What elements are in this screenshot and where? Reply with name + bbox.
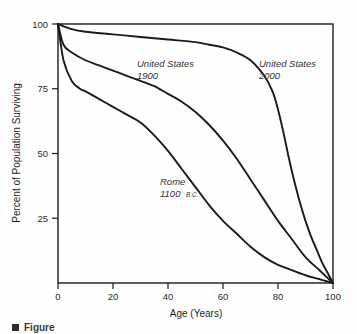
x-axis-ticks xyxy=(58,283,333,289)
label-us2000-line2: 2000 xyxy=(258,70,281,81)
caption-bullet-icon xyxy=(12,324,19,331)
caption-label: Figure xyxy=(24,322,55,333)
label-us1900-line1: United States xyxy=(137,58,194,69)
x-tick-label-60: 60 xyxy=(218,291,229,302)
label-us2000-line1: United States xyxy=(259,58,316,69)
x-tick-label-20: 20 xyxy=(108,291,119,302)
y-axis-ticks xyxy=(52,24,58,218)
y-tick-label-100: 100 xyxy=(32,19,48,30)
label-rome-line2: 1100 xyxy=(160,188,181,199)
x-tick-label-40: 40 xyxy=(163,291,174,302)
label-us1900-line2: 1900 xyxy=(137,70,159,81)
annotation-united-states-2000: United States 2000 xyxy=(258,58,316,81)
annotation-rome: Rome 1100 B.C. xyxy=(160,176,198,199)
x-tick-label-100: 100 xyxy=(325,291,341,302)
annotation-united-states-1900: United States 1900 xyxy=(137,58,194,81)
y-tick-label-75: 75 xyxy=(37,83,48,94)
y-tick-label-25: 25 xyxy=(37,213,48,224)
label-rome-era: B.C. xyxy=(186,191,198,198)
label-rome-line1: Rome xyxy=(160,176,185,187)
y-axis-title: Percent of Population Surviving xyxy=(11,83,22,223)
figure-container: 100 75 50 25 0 20 40 60 80 100 Age (Year… xyxy=(0,0,357,334)
x-tick-label-80: 80 xyxy=(273,291,284,302)
y-tick-label-50: 50 xyxy=(37,148,48,159)
x-tick-label-0: 0 xyxy=(55,291,60,302)
x-axis-title: Age (Years) xyxy=(170,308,222,319)
survivorship-chart: 100 75 50 25 0 20 40 60 80 100 Age (Year… xyxy=(0,0,357,334)
figure-caption: Figure xyxy=(12,322,55,334)
